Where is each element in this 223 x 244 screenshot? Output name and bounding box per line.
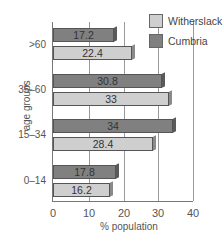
gridline-40 xyxy=(193,22,194,201)
x-tick-0: 0 xyxy=(50,207,56,219)
category-label-over60: >60 xyxy=(2,39,46,50)
bar-cumbria-over60: 17.2 xyxy=(53,28,114,42)
bar-witherslack-0-14: 16.2 xyxy=(53,183,110,197)
legend-swatch-cumbria xyxy=(149,34,163,48)
bar-cumbria-15-34: 34 xyxy=(53,119,173,133)
legend-swatch-witherslack xyxy=(149,14,163,28)
bar-witherslack-over60: 22.4 xyxy=(53,46,132,60)
x-tick-10: 10 xyxy=(83,207,95,219)
x-tick-20: 20 xyxy=(118,207,130,219)
y-axis-label: age groups xyxy=(21,80,32,130)
x-tick-30: 30 xyxy=(152,207,164,219)
x-tick-40: 40 xyxy=(187,207,199,219)
bar-cumbria-0-14: 17.8 xyxy=(53,165,116,179)
bar-witherslack-15-34: 28.4 xyxy=(53,137,153,151)
bar-cumbria-35-60: 30.8 xyxy=(53,74,162,88)
gridline-30 xyxy=(158,22,159,201)
legend-label-cumbria: Cumbria xyxy=(168,35,208,47)
bar-witherslack-35-60: 33 xyxy=(53,92,169,106)
legend-label-witherslack: Witherslack xyxy=(168,15,222,27)
x-axis xyxy=(52,201,193,202)
x-axis-label: % population xyxy=(100,221,158,232)
category-label-0-14: 0–14 xyxy=(2,175,46,186)
category-label-15-34: 15–34 xyxy=(2,129,46,140)
